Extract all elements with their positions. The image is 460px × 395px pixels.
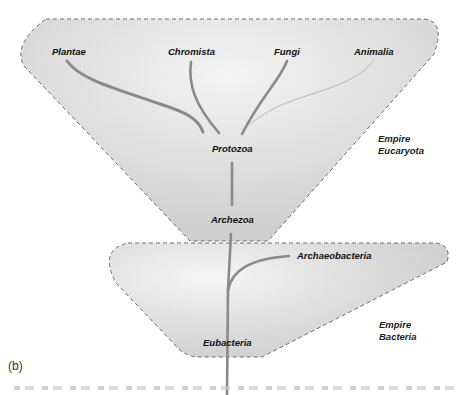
label-archezoa: Archezoa: [211, 214, 254, 226]
empire-bacteria-line2: Bacteria: [379, 331, 417, 343]
label-eubacteria: Eubacteria: [203, 337, 252, 349]
empire-bacteria-line1: Empire: [379, 319, 417, 331]
empire-eucaryota-line1: Empire: [378, 133, 424, 145]
label-archaeobacteria: Archaeobacteria: [297, 250, 371, 262]
empire-eucaryota-line2: Eucaryota: [378, 145, 424, 157]
empire-eucaryota-label: Empire Eucaryota: [378, 133, 424, 157]
label-plantae: Plantae: [52, 46, 86, 58]
clipped-caption-line: [14, 386, 454, 390]
label-protozoa: Protozoa: [212, 143, 253, 155]
panel-label: (b): [8, 359, 23, 373]
label-animalia: Animalia: [354, 46, 394, 58]
empire-bacteria-label: Empire Bacteria: [379, 319, 417, 343]
label-chromista: Chromista: [168, 46, 215, 58]
label-fungi: Fungi: [274, 46, 300, 58]
